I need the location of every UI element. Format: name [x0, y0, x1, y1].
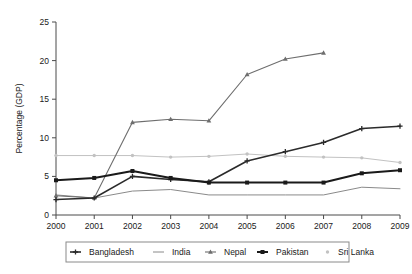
- data-point: [245, 152, 248, 155]
- series-line: [56, 126, 400, 199]
- data-point: [360, 156, 363, 159]
- data-point: [321, 50, 326, 54]
- y-tick-label: 20: [40, 56, 50, 66]
- x-tick-label: 2009: [391, 221, 410, 231]
- data-point: [360, 171, 364, 175]
- legend-label: Nepal: [224, 247, 246, 257]
- legend-marker-icon: [261, 250, 265, 254]
- y-axis-ticks: 0510152025: [40, 17, 56, 220]
- data-point: [53, 197, 58, 202]
- y-tick-label: 15: [40, 94, 50, 104]
- data-point: [245, 181, 249, 185]
- data-point: [284, 155, 287, 158]
- data-point: [54, 154, 57, 157]
- series-sri-lanka: [54, 152, 401, 164]
- x-tick-label: 2004: [199, 221, 218, 231]
- legend-item-sri-lanka[interactable]: Sri Lanka: [326, 247, 374, 257]
- data-point: [397, 124, 402, 129]
- x-tick-label: 2005: [238, 221, 257, 231]
- data-point: [359, 126, 364, 131]
- data-point: [169, 155, 172, 158]
- legend-label: Pakistan: [276, 247, 309, 257]
- axes: [56, 22, 400, 215]
- data-point: [283, 181, 287, 185]
- data-point: [54, 178, 58, 182]
- axis-lines: [56, 22, 400, 215]
- legend-label: India: [172, 247, 191, 257]
- x-tick-label: 2006: [276, 221, 295, 231]
- x-tick-label: 2002: [123, 221, 142, 231]
- legend-label: Bangladesh: [89, 247, 134, 257]
- y-tick-label: 25: [40, 17, 50, 27]
- data-point: [131, 154, 134, 157]
- legend-item-nepal[interactable]: Nepal: [205, 247, 246, 257]
- data-point: [322, 181, 326, 185]
- data-point: [322, 155, 325, 158]
- data-point: [398, 161, 401, 164]
- series-line: [56, 187, 400, 198]
- series-bangladesh: [53, 124, 402, 203]
- data-point: [283, 149, 288, 154]
- legend-item-india[interactable]: India: [153, 247, 191, 257]
- series-line: [56, 154, 400, 162]
- data-point: [93, 154, 96, 157]
- x-tick-label: 2003: [161, 221, 180, 231]
- y-axis-title: Percentage (GDP): [14, 83, 24, 153]
- data-point: [130, 169, 134, 173]
- chart-legend: BangladeshIndiaNepalPakistanSri Lanka: [66, 242, 374, 262]
- legend-marker-icon: [326, 250, 329, 253]
- x-tick-label: 2001: [85, 221, 104, 231]
- data-point: [207, 155, 210, 158]
- data-series: [53, 50, 402, 202]
- x-axis-ticks: 2000200120022003200420052006200720082009: [47, 215, 410, 231]
- legend-label: Sri Lanka: [338, 247, 374, 257]
- chart-container: 0510152025 20002001200220032004200520062…: [0, 0, 412, 274]
- data-point: [92, 176, 96, 180]
- data-point: [169, 176, 173, 180]
- x-tick-label: 2000: [47, 221, 66, 231]
- data-point: [321, 140, 326, 145]
- y-tick-label: 10: [40, 133, 50, 143]
- data-point: [398, 168, 402, 172]
- y-tick-label: 0: [44, 210, 49, 220]
- legend-item-pakistan[interactable]: Pakistan: [257, 247, 309, 257]
- legend-marker-icon: [73, 249, 78, 254]
- line-chart: 0510152025 20002001200220032004200520062…: [0, 0, 412, 274]
- x-tick-label: 2008: [352, 221, 371, 231]
- x-tick-label: 2007: [314, 221, 333, 231]
- y-axis-label: Percentage (GDP): [14, 83, 24, 153]
- legend-item-bangladesh[interactable]: Bangladesh: [70, 247, 134, 257]
- y-tick-label: 5: [44, 171, 49, 181]
- series-india: [56, 187, 400, 198]
- data-point: [207, 181, 211, 185]
